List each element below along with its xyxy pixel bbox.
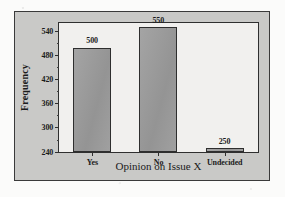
x-tick-mark [92, 152, 93, 156]
y-tick-mark [55, 152, 59, 153]
y-axis-title: Frequency [19, 22, 33, 153]
figure-outer-frame: 240300360420480540 500550250 YesNoUndeci… [14, 11, 270, 181]
x-tick-mark [225, 152, 226, 156]
y-minor-tick-mark [57, 43, 60, 44]
y-tick-mark [55, 127, 59, 128]
bar-no [139, 27, 177, 152]
bar-value-label: 500 [86, 36, 98, 45]
plot-frame: 240300360420480540 500550250 [58, 22, 259, 153]
bar-value-label: 250 [219, 137, 231, 146]
bar-shading [74, 49, 110, 151]
y-tick-label: 300 [42, 123, 53, 132]
y-tick-label: 420 [42, 75, 53, 84]
y-minor-tick-mark [57, 91, 60, 92]
y-tick-mark [55, 55, 59, 56]
x-tick-mark [158, 152, 159, 156]
bar-yes [73, 48, 111, 152]
y-minor-tick-mark [57, 67, 60, 68]
x-axis-title: Opinion on Issue X [58, 160, 259, 172]
bar-value-label: 550 [152, 16, 164, 25]
y-tick-mark [55, 103, 59, 104]
y-minor-tick-mark [57, 140, 60, 141]
y-minor-tick-mark [57, 115, 60, 116]
y-tick-label: 240 [42, 147, 53, 156]
y-tick-label: 360 [42, 99, 53, 108]
plot-area: 240300360420480540 500550250 [59, 23, 258, 152]
y-tick-mark [55, 79, 59, 80]
bar-shading [140, 28, 176, 151]
y-tick-label: 540 [42, 27, 53, 36]
y-tick-label: 480 [42, 51, 53, 60]
bar-shading [207, 149, 243, 151]
y-tick-mark [55, 31, 59, 32]
bar-chart-figure: 240300360420480540 500550250 YesNoUndeci… [0, 0, 285, 197]
